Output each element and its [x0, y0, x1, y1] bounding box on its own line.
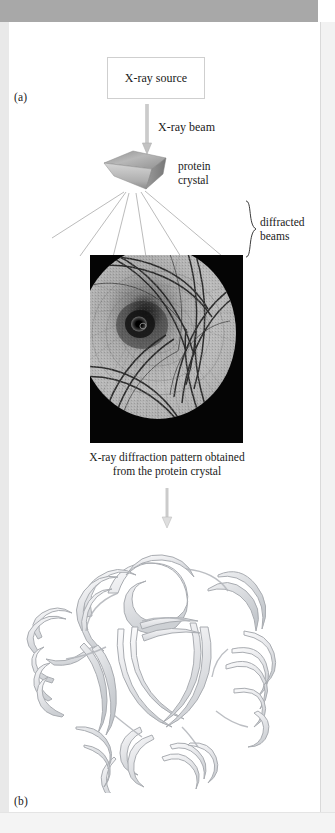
scan-right-margin [320, 22, 335, 812]
protein-crystal-label-line2: crystal [178, 173, 211, 187]
scan-bottom-margin [0, 812, 335, 833]
x-ray-source-label: X-ray source [125, 71, 187, 86]
diffracted-rays-fan [50, 186, 250, 258]
diffracted-beams-label: diffracted beams [260, 215, 304, 243]
pattern-caption-line2: from the protein crystal [44, 464, 290, 478]
protein-crystal-label-line1: protein [178, 159, 211, 173]
curly-brace-icon [243, 200, 259, 258]
x-ray-beam-label: X-ray beam [158, 120, 215, 135]
protein-ribbon-svg [22, 531, 314, 793]
diffraction-pattern-svg [90, 255, 243, 443]
scan-top-band-gap [318, 0, 335, 22]
scan-top-band [0, 0, 318, 22]
structure-transition-arrow-icon [160, 487, 174, 529]
panel-label-b: (b) [14, 795, 28, 807]
x-ray-source-box: X-ray source [107, 57, 205, 99]
protein-ribbon-diagram [22, 531, 314, 793]
protein-crystal-label: protein crystal [178, 159, 211, 187]
panel-label-a: (a) [14, 91, 27, 103]
scan-left-margin [0, 22, 9, 812]
diffracted-beams-line1: diffracted [260, 215, 304, 229]
pattern-caption-line1: X-ray diffraction pattern obtained [44, 450, 290, 464]
diffracted-beams-line2: beams [260, 229, 304, 243]
figure-root: (a) X-ray source X-ray beam [0, 0, 335, 833]
diffraction-pattern-caption: X-ray diffraction pattern obtained from … [44, 450, 290, 478]
diffraction-pattern-image [90, 255, 243, 443]
